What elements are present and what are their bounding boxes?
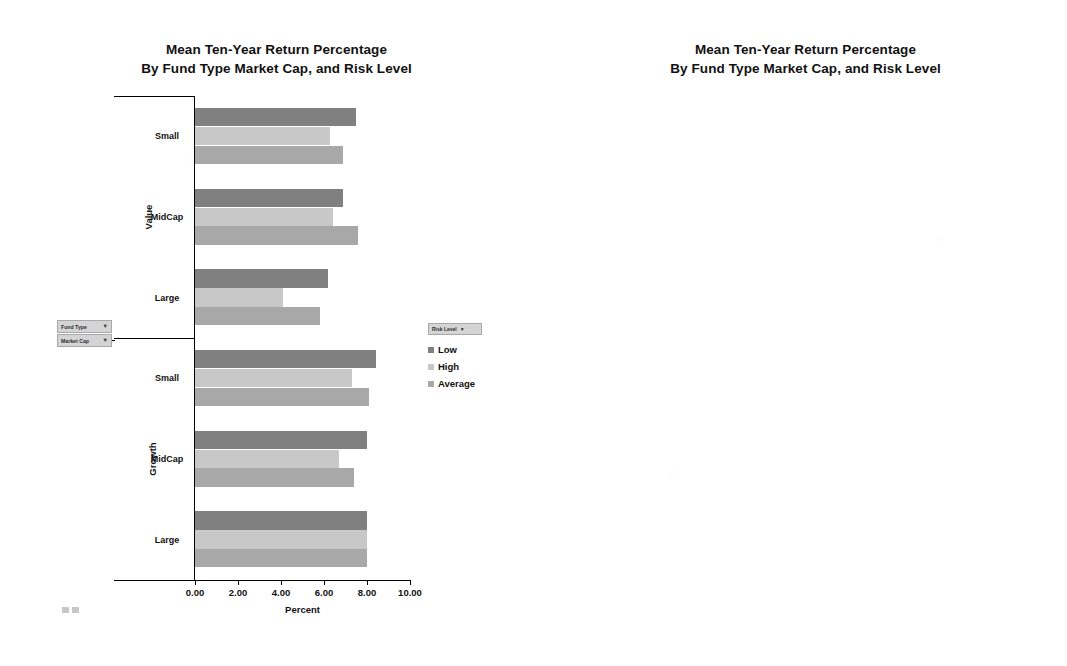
chart-title-right: Mean Ten-Year Return Percentage By Fund … <box>534 40 1067 78</box>
x-axis-tick <box>195 580 196 585</box>
bar-cluster <box>195 419 410 500</box>
bar-high[interactable] <box>195 288 283 306</box>
bar-average[interactable] <box>195 388 369 406</box>
legend-filter-risk-level[interactable]: Risk Level ▼ <box>428 323 482 335</box>
x-axis-tick-label: 8.00 <box>358 587 377 598</box>
chart-title-left: Mean Ten-Year Return Percentage By Fund … <box>0 40 533 78</box>
bar-high[interactable] <box>195 450 339 468</box>
category-small: Small <box>114 96 410 177</box>
bar-cluster <box>195 499 410 580</box>
category-axis-label: Small <box>144 131 190 141</box>
category-axis-label: Small <box>144 373 190 383</box>
x-axis-tick <box>367 580 368 585</box>
x-axis-tick-label: 4.00 <box>272 587 291 598</box>
chevron-down-icon[interactable]: ▼ <box>103 338 108 344</box>
chart-title-line2: By Fund Type Market Cap, and Risk Level <box>20 59 533 78</box>
chart-group-value: ValueSmallMidCapLarge <box>114 96 410 338</box>
x-axis-tick-label: 2.00 <box>229 587 248 598</box>
legend-swatch-icon <box>428 381 434 387</box>
slicer-market-cap[interactable]: Market Cap ▼ <box>57 334 112 347</box>
bar-high[interactable] <box>195 369 352 387</box>
bar-low[interactable] <box>195 108 356 126</box>
bar-cluster <box>195 177 410 258</box>
legend-item-label: High <box>438 361 459 372</box>
bar-average[interactable] <box>195 226 358 244</box>
legend-item-high[interactable]: High <box>428 358 482 375</box>
x-axis-tick <box>324 580 325 585</box>
bar-high[interactable] <box>195 127 330 145</box>
chevron-down-icon[interactable]: ▼ <box>103 324 108 330</box>
legend-filter-label: Risk Level <box>432 326 457 332</box>
chart-panel-left: Mean Ten-Year Return Percentage By Fund … <box>0 0 533 666</box>
bar-low[interactable] <box>195 511 367 529</box>
category-large: Large <box>114 257 410 338</box>
bar-cluster <box>195 96 410 177</box>
bar-low[interactable] <box>195 189 343 207</box>
bar-average[interactable] <box>195 146 343 164</box>
legend-item-label: Average <box>438 378 475 389</box>
x-axis-tick-label: 0.00 <box>186 587 205 598</box>
bar-cluster <box>195 338 410 419</box>
bar-cluster <box>195 257 410 338</box>
x-axis-tick-label: 6.00 <box>315 587 334 598</box>
bar-average[interactable] <box>195 468 354 486</box>
x-axis-tick <box>410 580 411 585</box>
category-small: Small <box>114 338 410 419</box>
x-axis-tick <box>238 580 239 585</box>
category-axis-label: Large <box>144 293 190 303</box>
x-axis-left: Percent 0.002.004.006.008.0010.00 <box>195 580 410 620</box>
chart-title-line2: By Fund Type Market Cap, and Risk Level <box>544 59 1067 78</box>
category-midcap: MidCap <box>114 177 410 258</box>
chart-title-line1: Mean Ten-Year Return Percentage <box>166 42 387 57</box>
x-axis-tick <box>281 580 282 585</box>
legend-item-label: Low <box>438 344 457 355</box>
legend-item-low[interactable]: Low <box>428 341 482 358</box>
legend-items-left: LowHighAverage <box>428 341 482 392</box>
slicer-fund-type[interactable]: Fund Type ▼ <box>57 320 112 333</box>
bar-low[interactable] <box>195 431 367 449</box>
category-axis-label: MidCap <box>144 454 190 464</box>
bar-low[interactable] <box>195 350 376 368</box>
corner-mark-left <box>62 607 79 613</box>
document-page: Mean Ten-Year Return Percentage By Fund … <box>0 0 1067 666</box>
legend-item-average[interactable]: Average <box>428 375 482 392</box>
legend-swatch-icon <box>428 364 434 370</box>
bar-high[interactable] <box>195 208 333 226</box>
slicer-market-cap-label: Market Cap <box>61 338 101 344</box>
category-axis-label: Large <box>144 535 190 545</box>
chart-panel-right: Mean Ten-Year Return Percentage By Fund … <box>534 0 1067 666</box>
slicer-fund-type-label: Fund Type <box>61 324 101 330</box>
bar-high[interactable] <box>195 530 367 548</box>
legend-swatch-icon <box>428 347 434 353</box>
chart-group-growth: GrowthSmallMidCapLarge <box>114 338 410 580</box>
category-axis-label: MidCap <box>144 212 190 222</box>
slicer-connector <box>112 340 115 341</box>
bar-average[interactable] <box>195 307 320 325</box>
category-midcap: MidCap <box>114 419 410 500</box>
legend-left: Risk Level ▼ LowHighAverage <box>428 323 482 392</box>
plot-area-left: ValueSmallMidCapLargeGrowthSmallMidCapLa… <box>114 96 410 580</box>
bar-low[interactable] <box>195 269 328 287</box>
category-large: Large <box>114 499 410 580</box>
chart-title-line1: Mean Ten-Year Return Percentage <box>695 42 916 57</box>
chevron-down-icon[interactable]: ▼ <box>460 326 465 332</box>
bar-average[interactable] <box>195 549 367 567</box>
x-axis-tick-label: 10.00 <box>398 587 422 598</box>
x-axis-title: Percent <box>195 604 410 615</box>
